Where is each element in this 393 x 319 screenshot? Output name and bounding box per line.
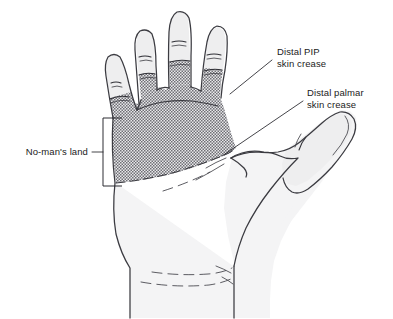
distal-palmar-label-line2: skin crease [307, 99, 356, 110]
distal-pip-leader-line [230, 60, 272, 94]
no-mans-land-label: No-man's land [26, 146, 88, 157]
distal-palmar-label-line1: Distal palmar [307, 87, 364, 98]
distal-pip-label-line2: skin crease [277, 58, 326, 69]
thenar-crease [163, 172, 210, 191]
figure-root: Distal PIP skin crease Distal palmar ski… [0, 0, 393, 319]
thenar-crease-2 [196, 164, 224, 180]
distal-pip-label-line1: Distal PIP [277, 46, 320, 57]
hand-diagram-svg: Distal PIP skin crease Distal palmar ski… [0, 0, 393, 319]
annotation-no-mans-land: No-man's land [26, 118, 122, 186]
